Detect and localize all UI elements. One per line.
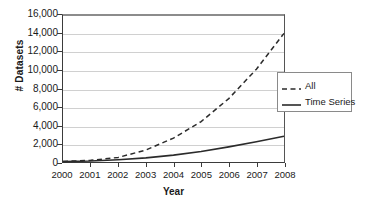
legend-label-all: All (305, 80, 316, 91)
y-axis-tick-label: 4,000 (12, 121, 58, 131)
y-axis-tick-label: 0 (12, 158, 58, 168)
y-axis-tick-label: 8,000 (12, 84, 58, 94)
x-axis-tick-mark (146, 163, 147, 167)
x-axis-tick-mark (174, 163, 175, 167)
x-axis-tick-mark (257, 163, 258, 167)
x-axis-tick-mark (229, 163, 230, 167)
series-line-time-series (63, 136, 284, 161)
legend-swatch-dashed (282, 80, 301, 90)
x-axis-tick-mark (118, 163, 119, 167)
x-axis-tick-label: 2008 (265, 169, 305, 180)
x-axis-tick-mark (285, 163, 286, 167)
legend-label-time-series: Time Series (305, 96, 355, 107)
y-axis-tick-label: 14,000 (12, 28, 58, 38)
y-axis-tick-mark (57, 163, 62, 164)
legend-swatch-solid (282, 96, 301, 106)
x-axis-title: Year (62, 186, 285, 197)
data-series-lines (63, 15, 284, 162)
chart-screenshot: # Datasets 16,00014,00012,00010,0008,000… (0, 0, 377, 208)
x-axis-tick-mark (90, 163, 91, 167)
y-axis-tick-label: 2,000 (12, 139, 58, 149)
y-axis-tick-label: 16,000 (12, 9, 58, 19)
y-axis-tick-label: 12,000 (12, 46, 58, 56)
y-axis-tick-label: 6,000 (12, 102, 58, 112)
plot-area (62, 14, 285, 163)
legend-item-time-series: Time Series (282, 94, 355, 108)
y-axis-tick-label: 10,000 (12, 65, 58, 75)
chart-legend: All Time Series (277, 72, 352, 112)
legend-item-all: All (282, 78, 316, 92)
x-axis-tick-mark (201, 163, 202, 167)
